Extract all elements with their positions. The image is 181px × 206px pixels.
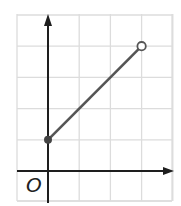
open-point	[137, 42, 145, 50]
closed-point	[44, 136, 52, 144]
series	[44, 42, 146, 144]
origin-label: O	[26, 175, 42, 195]
y-axis-arrow-icon	[44, 14, 52, 26]
line-segment	[48, 46, 142, 140]
